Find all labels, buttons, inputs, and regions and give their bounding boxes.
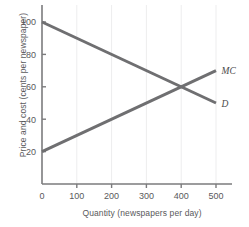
- chart-figure: Price and cost (cents per newspaper) Qua…: [0, 0, 249, 227]
- x-tick-label-400: 400: [174, 191, 189, 201]
- y-tick-label-80: 80: [26, 50, 36, 60]
- y-tick-label-100: 100: [21, 17, 36, 27]
- x-tick-label-100: 100: [69, 191, 84, 201]
- x-tick-label-0: 0: [39, 191, 44, 201]
- series-label-MC: MC: [220, 66, 236, 76]
- y-tick-label-40: 40: [26, 115, 36, 125]
- x-tick-label-300: 300: [139, 191, 154, 201]
- plot-area: 20406080100 0100200300400500 DMC: [0, 0, 249, 227]
- series-group: [42, 22, 216, 152]
- x-tick-group: 0100200300400500: [39, 184, 223, 201]
- series-line-D: [42, 22, 216, 103]
- y-tick-label-20: 20: [26, 147, 36, 157]
- x-tick-label-200: 200: [104, 191, 119, 201]
- y-tick-label-60: 60: [26, 82, 36, 92]
- series-label-D: D: [220, 99, 228, 109]
- x-tick-label-500: 500: [208, 191, 223, 201]
- series-line-MC: [42, 71, 216, 152]
- series-label-group: DMC: [220, 66, 236, 108]
